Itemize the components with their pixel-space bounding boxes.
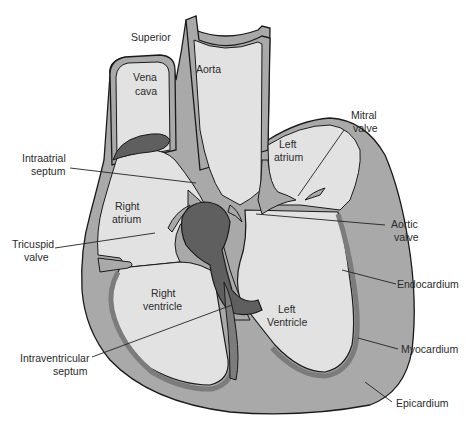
label-intraventricular-septum-1: Intraventricular [20, 352, 90, 364]
label-right-atrium-2: atrium [112, 213, 141, 225]
label-tricuspid-valve-2: valve [24, 251, 49, 263]
label-right-ventricle-1: Right [151, 287, 176, 299]
label-intraatrial-septum-2: septum [31, 165, 66, 177]
label-aortic-valve-2: valve [394, 231, 419, 243]
label-right-ventricle-2: ventricle [143, 300, 182, 312]
label-endocardium: Endocardium [397, 278, 459, 290]
label-tricuspid-valve-1: Tricuspid [12, 238, 54, 250]
label-right-atrium-1: Right [115, 200, 140, 212]
label-mitral-valve-1: Mitral [351, 109, 377, 121]
label-epicardium: Epicardium [396, 397, 449, 409]
label-left-ventricle-2: Ventricle [267, 316, 307, 328]
label-intraventricular-septum-2: septum [53, 365, 88, 377]
label-left-atrium-1: Left [279, 138, 297, 150]
label-myocardium: Myocardium [401, 343, 458, 355]
label-cava: cava [135, 85, 157, 97]
label-mitral-valve-2: valve [353, 122, 378, 134]
label-left-atrium-2: atrium [274, 151, 303, 163]
heart-diagram: Superior Vena cava Aorta Mitral valve Le… [0, 0, 471, 431]
label-left-ventricle-1: Left [278, 303, 296, 315]
label-superior: Superior [131, 31, 171, 43]
label-vena: Vena [133, 71, 157, 83]
label-intraatrial-septum-1: Intraatrial [22, 152, 66, 164]
label-aortic-valve-1: Aortic [391, 218, 418, 230]
label-aorta: Aorta [196, 63, 221, 75]
